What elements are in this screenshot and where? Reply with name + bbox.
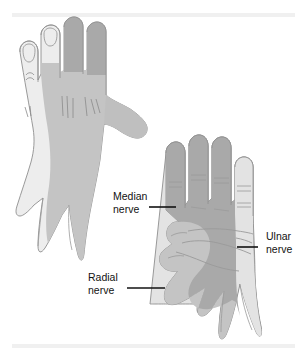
nerve-distribution-figure: Median nerve Radial nerve Ulnar nerve <box>0 0 307 361</box>
bottom-band <box>12 344 295 348</box>
median-nerve-label-line1: Median <box>113 190 148 202</box>
dorsal-median-zone-2 <box>87 22 106 75</box>
hand-nerve-diagram-svg: Median nerve Radial nerve Ulnar nerve <box>0 0 307 361</box>
ulnar-nerve-label-line2: nerve <box>266 243 292 255</box>
median-nerve-label-line2: nerve <box>113 203 139 215</box>
ulnar-nerve-label-line1: Ulnar <box>266 230 292 242</box>
radial-nerve-label-line2: nerve <box>88 284 114 296</box>
top-band <box>12 13 295 17</box>
dorsal-median-zone <box>64 17 83 72</box>
radial-nerve-label-line1: Radial <box>88 271 118 283</box>
